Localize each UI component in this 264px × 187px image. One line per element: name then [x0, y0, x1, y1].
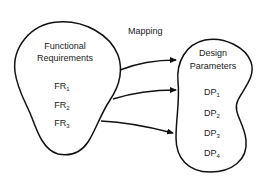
dp4-base: DP [204, 148, 217, 158]
fr3-base: FR [54, 118, 66, 128]
mapping-arrow-2 [113, 90, 176, 99]
dp1-item: DP1 [204, 87, 220, 101]
dp4-sub: 4 [217, 153, 220, 159]
fr2-item: FR2 [54, 100, 69, 114]
dp1-base: DP [204, 87, 217, 97]
dp4-item: DP4 [204, 148, 220, 162]
dp3-sub: 3 [217, 133, 220, 139]
fr3-sub: 3 [66, 123, 69, 129]
mapping-arrow-1 [120, 60, 176, 70]
functional-title-line2: Requirements [37, 53, 93, 64]
dp3-item: DP3 [204, 128, 220, 142]
functional-title-line1: Functional [44, 41, 86, 52]
dp2-sub: 2 [217, 113, 220, 119]
mapping-arrow-3 [101, 121, 173, 133]
fr2-sub: 2 [66, 105, 69, 111]
design-title-line1: Design [199, 48, 227, 59]
fr3-item: FR3 [54, 118, 69, 132]
fr1-sub: 1 [66, 86, 69, 92]
dp3-base: DP [204, 128, 217, 138]
fr2-base: FR [54, 100, 66, 110]
fr1-base: FR [54, 81, 66, 91]
mapping-label: Mapping [128, 26, 163, 37]
dp2-base: DP [204, 108, 217, 118]
dp2-item: DP2 [204, 108, 220, 122]
dp1-sub: 1 [217, 92, 220, 98]
design-title-line2: Parameters [190, 61, 237, 72]
fr1-item: FR1 [54, 81, 69, 95]
mapping-diagram: Mapping Functional Requirements FR1 FR2 … [0, 0, 264, 187]
